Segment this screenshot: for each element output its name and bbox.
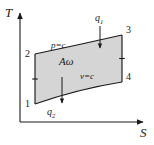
constant-volume-value: c [90,71,94,81]
heat-input-label: q1 [95,13,103,26]
area-work-label: Aω [59,56,74,67]
process-area-fill [35,35,122,104]
state-point-1-label: 1 [25,99,30,109]
heat-output-label: q2 [47,107,55,120]
constant-pressure-label: p=c [51,41,66,50]
heat-input-subscript: 1 [100,18,103,25]
area-work-prefix: A [59,55,66,67]
area-work-symbol: ω [66,55,74,67]
heat-output-subscript: 2 [52,112,55,119]
s-axis-label: S [140,126,147,139]
state-point-3-label: 3 [126,25,131,35]
t-axis-label: T [5,6,12,19]
ts-diagram-figure: T S 1 2 3 4 p=c v=c Aω q1 q2 [0,0,154,145]
state-point-4-label: 4 [126,72,131,82]
constant-volume-label: v=c [80,72,94,81]
state-point-2-label: 2 [25,49,30,59]
constant-pressure-value: c [62,40,66,50]
